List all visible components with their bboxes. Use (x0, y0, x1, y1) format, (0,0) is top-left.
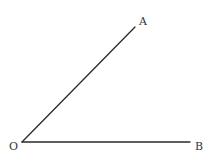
point-label-b: B (195, 140, 203, 153)
vertex-label-o: O (9, 140, 18, 153)
ray-oa (22, 27, 135, 142)
angle-diagram: O A B (0, 0, 215, 161)
point-label-a: A (138, 15, 148, 28)
